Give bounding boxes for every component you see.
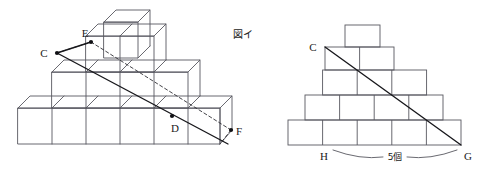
right-diagonal-group [325,47,461,145]
brace-right-arc [407,150,457,158]
right-row-2 [305,95,443,120]
base-row-top [18,96,232,144]
dashed-E-F [91,42,231,130]
top-cube-top [104,10,150,58]
brace-left-arc [333,150,383,158]
dot-F [229,128,233,132]
label-point-G-right: G [464,150,472,162]
right-row-1 [288,120,461,145]
third-row-front [86,36,154,72]
right-row-4 [325,47,394,70]
label-point-C-right: C [309,41,316,53]
diagonal-C-G [325,47,461,145]
dot-C [55,51,59,55]
dot-D [170,114,174,118]
left-dashed-lines [57,42,231,144]
dashed-F-corner [220,130,231,144]
figure-svg: C E D F 図イ [0,0,493,172]
dot-E [89,40,93,44]
right-row-5 [345,25,380,47]
top-cube-front [104,22,138,58]
left-solid-lines [57,42,228,144]
label-point-C-left: C [40,47,47,59]
label-point-F-left: F [236,125,242,137]
base-row-front [18,108,220,144]
label-point-H-right: H [320,150,328,162]
second-row-top [52,60,200,96]
diagram-canvas: C E D F 図イ [0,0,493,172]
label-point-D-left: D [171,122,179,134]
solid-C-corner [57,53,228,144]
label-point-E-left: E [82,27,89,39]
left-vertex-dots [55,40,233,132]
figure-caption-right: 図イ [233,29,253,40]
count-label: 5個 [388,151,403,162]
left-figure-group [18,10,232,144]
